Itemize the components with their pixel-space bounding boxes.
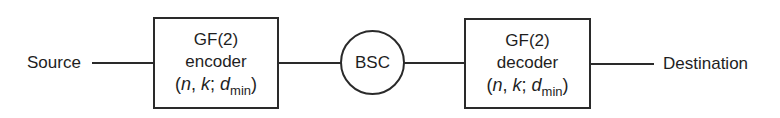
source-label: Source [27,53,81,73]
edge-channel-decoder [404,62,465,64]
encoder-name-label: encoder [185,51,246,73]
encoder-params: (n, k; dmin) [175,73,257,97]
encoder-block: GF(2) encoder (n, k; dmin) [153,17,279,109]
bsc-channel-node: BSC [340,30,405,95]
destination-label: Destination [663,54,748,74]
decoder-field-label: GF(2) [505,30,549,52]
edge-decoder-destination [590,63,654,65]
edge-source-encoder [92,62,154,64]
encoder-field-label: GF(2) [194,29,238,51]
decoder-block: GF(2) decoder (n, k; dmin) [464,18,591,109]
decoder-name-label: decoder [497,52,558,74]
edge-encoder-channel [278,62,342,64]
decoder-params: (n, k; dmin) [486,74,568,98]
bsc-label: BSC [355,53,390,73]
